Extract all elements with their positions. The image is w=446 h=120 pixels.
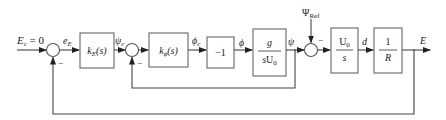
signal-phi-label: ϕ: [239, 37, 244, 48]
summing-junction-1: −: [47, 44, 64, 69]
signal-phi-c-label: ϕc: [192, 35, 201, 48]
block-one-numerator: 1: [386, 36, 391, 47]
summing-junction-3: −: [305, 35, 324, 57]
summing-junction-2: −: [126, 44, 143, 69]
block-U0-denominator: s: [343, 52, 347, 63]
branch-point: [294, 49, 296, 51]
signal-d-label: d: [362, 36, 368, 47]
block-g-over-sU0: g sU0: [253, 29, 286, 76]
block-R-denominator: R: [384, 52, 391, 63]
block-k-E: kE(s): [80, 33, 114, 68]
minus-sign: −: [137, 58, 142, 68]
minus-sign: −: [318, 35, 323, 45]
output-E-label: E: [419, 35, 426, 46]
psi-ref-label: ΨRef: [302, 7, 320, 20]
signal-psi-c-label: ψc: [115, 35, 125, 48]
block-U0-over-s: U0 s: [331, 28, 358, 73]
signal-psi-label: ψ: [288, 36, 295, 47]
summing-junction-circle: [305, 44, 318, 57]
signal-e-E-label: eE: [63, 35, 72, 48]
block-k-phi: kϕ(s): [149, 33, 188, 67]
block-one-over-R: 1 R: [374, 28, 402, 73]
block-diagram: Ec = 0 − eE kE(s) ψc − kϕ(s) ϕc: [0, 0, 446, 120]
block-neg-one: −1: [207, 37, 234, 68]
input-label: Ec = 0: [16, 34, 45, 48]
block-g-numerator: g: [267, 37, 272, 48]
minus-sign: −: [58, 58, 63, 68]
summing-junction-circle: [47, 44, 60, 57]
block-neg-one-label: −1: [215, 47, 226, 58]
summing-junction-circle: [126, 44, 139, 57]
branch-point: [413, 49, 415, 51]
input-signal: Ec = 0: [16, 34, 46, 50]
